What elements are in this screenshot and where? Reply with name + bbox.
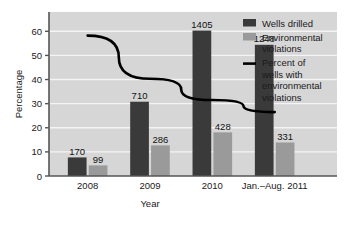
- bar: [68, 157, 87, 176]
- bar-value-label: 170: [69, 146, 85, 157]
- bar-value-label: 286: [152, 134, 168, 145]
- y-tick-label: 50: [31, 50, 42, 61]
- bar-value-label: 331: [277, 131, 293, 142]
- y-tick-label: 20: [31, 122, 42, 133]
- legend-label: violations: [262, 43, 302, 54]
- x-axis-category-label: 2008: [77, 180, 98, 191]
- legend-label: wells with: [261, 69, 303, 80]
- bar: [213, 132, 232, 176]
- legend-label: Percent of: [262, 57, 306, 68]
- bar-value-label: 1405: [191, 19, 212, 30]
- y-tick-label: 60: [31, 26, 42, 37]
- x-axis-category-label: 2009: [139, 180, 160, 191]
- chart-container: 0102030405060 1709971028614054281248331 …: [0, 0, 346, 225]
- legend-label: Environmental: [262, 32, 323, 43]
- bar-value-label: 428: [215, 121, 231, 132]
- y-axis-title: Percentage: [13, 70, 24, 119]
- x-axis-category-label: 2010: [202, 180, 223, 191]
- bar-value-label: 710: [132, 90, 148, 101]
- bar: [89, 165, 108, 176]
- legend-label: environmental: [262, 80, 322, 91]
- bar: [193, 31, 212, 176]
- y-tick-label: 30: [31, 98, 42, 109]
- legend-label: violations: [262, 92, 302, 103]
- bar: [130, 102, 149, 176]
- x-axis-category-label: Jan.–Aug. 2011: [242, 180, 308, 191]
- grouped-bar-line-chart: 0102030405060 1709971028614054281248331 …: [0, 0, 346, 225]
- bar: [151, 145, 170, 176]
- x-axis-title: Year: [140, 198, 159, 209]
- bar-value-label: 99: [93, 154, 104, 165]
- bar: [276, 142, 295, 176]
- y-tick-label: 40: [31, 74, 42, 85]
- legend-label: Wells drilled: [262, 18, 313, 29]
- legend-swatch: [243, 33, 256, 41]
- y-tick-label: 0: [37, 171, 42, 182]
- y-tick-label: 10: [31, 146, 42, 157]
- legend-swatch: [243, 19, 256, 27]
